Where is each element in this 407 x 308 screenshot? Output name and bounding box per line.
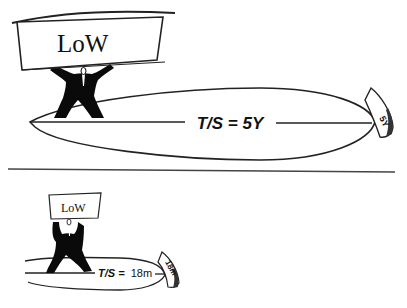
bottom-formula: T/S = 18m: [98, 267, 152, 279]
diagram-canvas: T/S = 5Y 5Y LoW T/S = 18m: [0, 0, 407, 308]
panel-divider: [8, 169, 395, 172]
top-low-sign: LoW: [12, 12, 175, 70]
bottom-low-sign: LoW: [49, 193, 101, 219]
bottom-formula-value: 18m: [131, 267, 152, 279]
bottom-sign-label: LoW: [61, 201, 86, 215]
bottom-panel: T/S = 18m 18m LoW: [25, 193, 179, 290]
top-formula-label: T/S = 5Y: [197, 114, 265, 133]
top-sign-label: LoW: [57, 30, 109, 57]
top-panel: T/S = 5Y 5Y LoW: [12, 12, 393, 160]
bottom-formula-prefix: T/S =: [98, 267, 125, 279]
